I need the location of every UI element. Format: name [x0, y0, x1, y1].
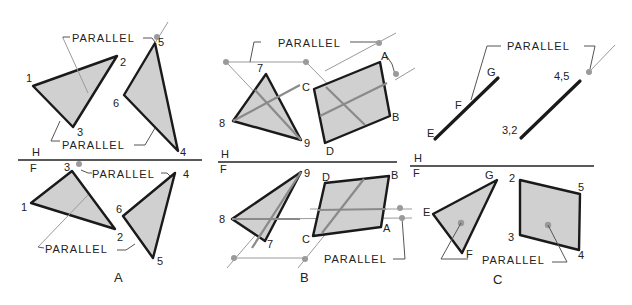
- point-marker: [302, 256, 308, 262]
- vertex-label-3: 3: [77, 126, 83, 138]
- panel-a: H F PARALLEL PARALLEL 1 2 3 5 6 4 PARALL…: [18, 22, 202, 285]
- point-marker: [303, 59, 309, 65]
- point-marker: [393, 71, 399, 77]
- panel-c: H F PARALLEL G F E 4,5 3,2 PARALLEL G E …: [410, 40, 615, 287]
- leader-line: [143, 38, 155, 42]
- vertex-label-e: E: [423, 206, 430, 218]
- vertex-label-2: 2: [509, 172, 515, 184]
- vertex-label-f: F: [466, 248, 473, 260]
- vertex-label-3: 3: [64, 161, 70, 173]
- construction-line: [590, 45, 615, 71]
- leader-line: [161, 173, 170, 176]
- vertex-label-4: 4: [183, 168, 189, 180]
- vertex-label-3-2: 3,2: [502, 124, 517, 136]
- point-marker: [376, 40, 382, 46]
- vertex-label-c: C: [302, 233, 310, 245]
- fold-label-f-a: F: [30, 162, 37, 174]
- vertex-label-3: 3: [508, 231, 514, 243]
- vertex-label-2: 2: [117, 231, 123, 243]
- vertex-label-g: G: [487, 66, 496, 78]
- vertex-label-e: E: [427, 127, 434, 139]
- point-marker: [223, 59, 229, 65]
- triangle-987-front: [232, 172, 301, 241]
- parallel-label: PARALLEL: [45, 243, 108, 255]
- vertex-label-6: 6: [116, 203, 122, 215]
- parallel-label: PARALLEL: [72, 32, 135, 44]
- fold-label-h-b: H: [221, 148, 229, 160]
- leader-line: [81, 170, 92, 173]
- vertex-label-f: F: [455, 99, 462, 111]
- fold-label-h-c: H: [414, 152, 422, 164]
- fold-label-h-a: H: [32, 146, 40, 158]
- quad-2543-front: [520, 180, 580, 250]
- parallel-label: PARALLEL: [507, 40, 570, 52]
- leader-line: [134, 128, 155, 145]
- parallel-label: PARALLEL: [278, 37, 341, 49]
- fold-label-f-b: F: [220, 163, 227, 175]
- parallel-label: PARALLEL: [92, 168, 155, 180]
- vertex-label-a: A: [383, 222, 391, 234]
- vertex-label-5: 5: [157, 255, 163, 267]
- vertex-label-4: 4: [180, 146, 186, 158]
- vertex-label-c: C: [302, 81, 310, 93]
- vertex-label-b: B: [391, 169, 398, 181]
- vertex-label-9: 9: [304, 167, 310, 179]
- point-marker: [231, 255, 237, 261]
- vertex-label-g: G: [485, 169, 494, 181]
- principal-line: [318, 209, 386, 210]
- parallel-label: PARALLEL: [62, 139, 125, 151]
- leader-line: [250, 42, 261, 62]
- parallel-label: PARALLEL: [324, 253, 387, 265]
- vertex-label-7: 7: [267, 238, 273, 250]
- vertex-label-a: A: [381, 50, 389, 62]
- vertex-label-5: 5: [578, 181, 584, 193]
- edge-view-2345: [521, 81, 580, 138]
- triangle-gef-front: [433, 180, 497, 253]
- vertex-label-9: 9: [304, 137, 310, 149]
- vertex-label-6: 6: [113, 97, 119, 109]
- vertex-label-d: D: [326, 145, 334, 157]
- panel-caption-c: C: [493, 272, 502, 287]
- parallel-label: PARALLEL: [482, 254, 545, 266]
- vertex-label-b: B: [392, 111, 399, 123]
- point-marker: [586, 69, 592, 75]
- point-marker: [397, 205, 403, 211]
- leader-line: [471, 46, 501, 100]
- vertex-label-7: 7: [257, 62, 263, 74]
- edge-view-efg: [435, 78, 498, 139]
- leader-line: [393, 218, 405, 259]
- vertex-label-d: D: [322, 171, 330, 183]
- vertex-label-2: 2: [120, 56, 126, 68]
- vertex-label-8: 8: [219, 213, 225, 225]
- vertex-label-1: 1: [21, 201, 27, 213]
- quad-dbac-front: [313, 176, 389, 236]
- vertex-label-5: 5: [158, 36, 164, 48]
- leader-line: [584, 46, 595, 69]
- orthographic-projection-figure: H F PARALLEL PARALLEL 1 2 3 5 6 4 PARALL…: [0, 0, 632, 305]
- point-marker: [399, 215, 405, 221]
- point-marker: [76, 161, 82, 167]
- leader-line: [117, 244, 135, 250]
- triangle-123-top: [33, 56, 117, 127]
- panel-caption-a: A: [114, 270, 123, 285]
- vertex-label-1: 1: [26, 72, 32, 84]
- panel-b: H F PARALLEL 7 8 9 C A B D: [218, 33, 415, 285]
- leader-line: [63, 37, 70, 38]
- vertex-label-4: 4: [578, 249, 584, 261]
- triangle-465-front: [123, 173, 175, 258]
- leader-line: [38, 247, 44, 248]
- vertex-label-4-5: 4,5: [554, 70, 569, 82]
- fold-label-f-c: F: [413, 167, 420, 179]
- quad-abcd-top: [314, 62, 390, 143]
- diagram-canvas: H F PARALLEL PARALLEL 1 2 3 5 6 4 PARALL…: [0, 0, 632, 305]
- panel-caption-b: B: [300, 270, 309, 285]
- leader-line: [51, 121, 60, 141]
- vertex-label-8: 8: [219, 117, 225, 129]
